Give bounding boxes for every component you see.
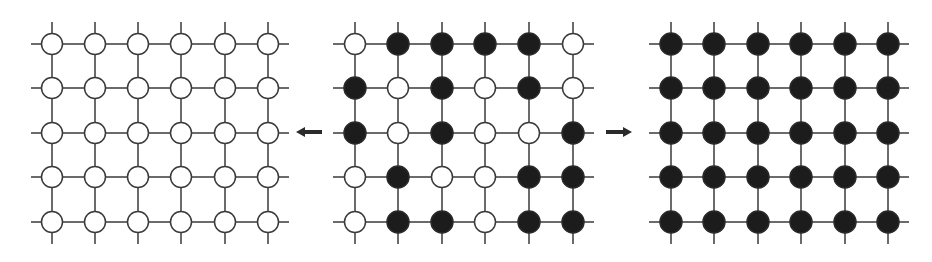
white-node <box>171 34 192 55</box>
black-node <box>518 211 540 233</box>
black-node <box>703 122 725 144</box>
left-grid-all-white <box>31 22 289 244</box>
white-node <box>519 123 540 144</box>
white-node <box>258 123 279 144</box>
grids-group <box>31 22 909 244</box>
white-node <box>42 123 63 144</box>
middle-grid-mixed <box>333 22 594 244</box>
black-node <box>747 33 769 55</box>
white-node <box>475 167 496 188</box>
black-node <box>518 166 540 188</box>
white-node <box>215 123 236 144</box>
black-node <box>747 122 769 144</box>
black-node <box>747 77 769 99</box>
black-node <box>562 211 584 233</box>
white-node <box>85 167 106 188</box>
white-node <box>128 212 149 233</box>
white-node <box>345 212 366 233</box>
white-node <box>258 167 279 188</box>
white-node <box>345 34 366 55</box>
white-node <box>345 167 366 188</box>
black-node <box>877 122 899 144</box>
black-node <box>834 166 856 188</box>
white-node <box>128 167 149 188</box>
white-node <box>171 167 192 188</box>
black-node <box>660 77 682 99</box>
white-node <box>258 78 279 99</box>
black-node <box>703 211 725 233</box>
white-node <box>85 123 106 144</box>
black-node <box>790 33 812 55</box>
black-node <box>387 166 409 188</box>
white-node <box>42 212 63 233</box>
black-node <box>703 77 725 99</box>
black-node <box>790 166 812 188</box>
white-node <box>563 34 584 55</box>
black-node <box>562 122 584 144</box>
white-node <box>215 212 236 233</box>
white-node <box>258 34 279 55</box>
black-node <box>387 211 409 233</box>
black-node <box>877 33 899 55</box>
black-node <box>834 122 856 144</box>
white-node <box>128 34 149 55</box>
black-node <box>431 122 453 144</box>
white-node <box>171 212 192 233</box>
white-node <box>258 212 279 233</box>
black-node <box>703 33 725 55</box>
white-node <box>432 167 453 188</box>
white-node <box>475 78 496 99</box>
black-node <box>344 122 366 144</box>
black-node <box>660 33 682 55</box>
black-node <box>660 166 682 188</box>
white-node <box>215 167 236 188</box>
arrow-right-icon <box>606 127 632 137</box>
white-node <box>388 123 409 144</box>
white-node <box>85 212 106 233</box>
white-node <box>128 123 149 144</box>
black-node <box>474 33 496 55</box>
white-node <box>475 212 496 233</box>
black-node <box>431 33 453 55</box>
black-node <box>562 166 584 188</box>
black-node <box>877 211 899 233</box>
black-node <box>747 166 769 188</box>
arrow-left-icon <box>296 127 322 137</box>
black-node <box>790 211 812 233</box>
black-node <box>877 166 899 188</box>
white-node <box>42 34 63 55</box>
black-node <box>660 211 682 233</box>
black-node <box>877 77 899 99</box>
black-node <box>834 33 856 55</box>
white-node <box>85 34 106 55</box>
black-node <box>834 211 856 233</box>
black-node <box>431 211 453 233</box>
white-node <box>215 34 236 55</box>
black-node <box>790 77 812 99</box>
black-node <box>518 33 540 55</box>
black-node <box>431 77 453 99</box>
black-node <box>790 122 812 144</box>
white-node <box>475 123 496 144</box>
right-grid-all-black <box>649 22 909 244</box>
white-node <box>42 167 63 188</box>
lattice-transition-diagram <box>0 0 932 262</box>
white-node <box>388 78 409 99</box>
black-node <box>703 166 725 188</box>
black-node <box>387 33 409 55</box>
black-node <box>344 77 366 99</box>
white-node <box>171 123 192 144</box>
black-node <box>660 122 682 144</box>
black-node <box>747 211 769 233</box>
white-node <box>128 78 149 99</box>
white-node <box>42 78 63 99</box>
black-node <box>518 77 540 99</box>
white-node <box>563 78 584 99</box>
white-node <box>85 78 106 99</box>
white-node <box>215 78 236 99</box>
white-node <box>171 78 192 99</box>
black-node <box>834 77 856 99</box>
